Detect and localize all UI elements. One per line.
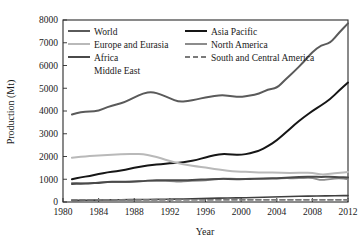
x-tick-label: 2012 [339,207,358,217]
x-tick-label: 2008 [303,207,322,217]
legend-label: Africa [94,53,119,63]
y-tick-label: 5000 [39,84,58,94]
legend-label: Asia Pacific [211,27,257,37]
x-tick-label: 1996 [196,207,215,217]
legend-label: North America [211,40,269,50]
y-tick-label: 3000 [39,129,58,139]
legend-label: Middle East [94,66,141,76]
x-tick-label: 1984 [89,207,108,217]
y-tick-label: 8000 [39,15,58,25]
chart-legend: WorldEurope and EurasiaAfricaMiddle East… [68,27,315,76]
x-axis-title: Year [196,226,215,237]
y-tick-label: 1000 [39,175,58,185]
y-tick-label: 6000 [39,61,58,71]
production-line-chart: 010002000300040005000600070008000 198019… [0,0,364,241]
x-tick-label: 1988 [125,207,144,217]
y-axis-title: Production (Mt) [5,80,17,145]
legend-label: World [94,27,118,37]
x-tick-label: 2000 [232,207,251,217]
series-lines [72,23,348,200]
legend-label: South and Central America [211,53,315,63]
y-tick-label: 0 [53,197,58,207]
x-tick-label: 2004 [267,207,286,217]
x-tick-label: 1980 [54,207,73,217]
legend-label: Europe and Eurasia [94,40,169,50]
y-tick-label: 2000 [39,152,58,162]
chart-figure: 010002000300040005000600070008000 198019… [0,0,364,241]
y-tick-label: 4000 [39,106,58,116]
y-tick-label: 7000 [39,38,58,48]
x-tick-label: 1992 [160,207,179,217]
